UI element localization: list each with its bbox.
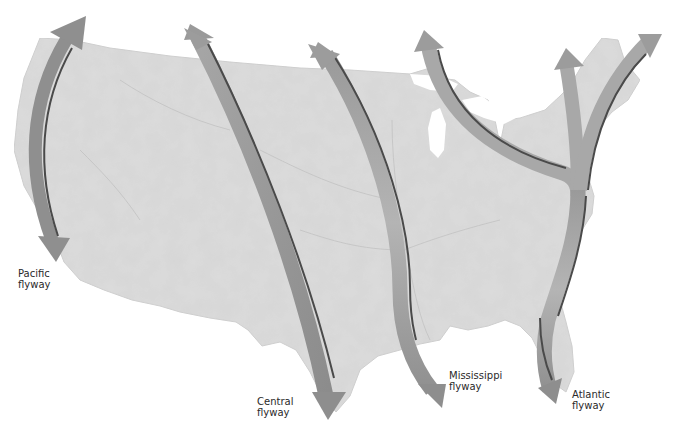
pacific-flyway-label: Pacific flyway: [18, 268, 50, 290]
mississippi-flyway-label: Mississippi flyway: [449, 370, 502, 392]
central-flyway-label-line1: Central: [257, 396, 293, 407]
atlantic-flyway-label-line2: flyway: [572, 400, 610, 411]
flyway-map: Pacific flyway Central flyway Mississipp…: [0, 0, 678, 436]
atlantic-flyway-label: Atlantic flyway: [572, 389, 610, 411]
pacific-flyway-label-line1: Pacific: [18, 268, 50, 279]
mississippi-flyway-label-line1: Mississippi: [449, 370, 502, 381]
central-flyway-label: Central flyway: [257, 396, 293, 418]
us-map-graphic: [0, 0, 678, 436]
mississippi-flyway-label-line2: flyway: [449, 381, 502, 392]
atlantic-flyway-label-line1: Atlantic: [572, 389, 610, 400]
central-flyway-label-line2: flyway: [257, 407, 293, 418]
pacific-flyway-label-line2: flyway: [18, 279, 50, 290]
